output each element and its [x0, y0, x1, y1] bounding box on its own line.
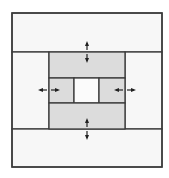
inner-center-region	[74, 78, 99, 103]
diagram-canvas	[0, 0, 169, 178]
nested-box-diagram	[0, 0, 169, 178]
